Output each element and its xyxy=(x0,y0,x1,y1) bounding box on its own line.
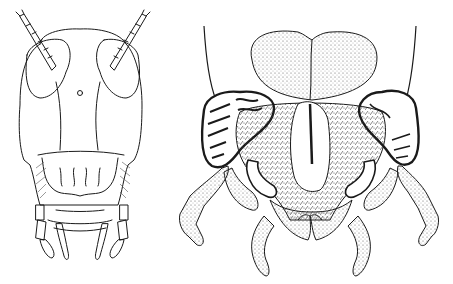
left-palp xyxy=(36,205,69,259)
head-frontal-drawing xyxy=(0,0,180,284)
right-maxillary-palp xyxy=(397,166,438,246)
right-labial-palp xyxy=(348,216,370,276)
mouthparts-drawing xyxy=(170,0,453,284)
head-frontal-illustration xyxy=(0,0,180,284)
labrum-lobes xyxy=(251,31,377,100)
right-palp xyxy=(95,205,128,259)
left-labial-palp xyxy=(252,216,274,276)
clypeus xyxy=(38,151,124,155)
left-maxillary-palp xyxy=(179,166,228,246)
labrum xyxy=(42,158,118,196)
mouthparts-illustration xyxy=(170,0,453,284)
